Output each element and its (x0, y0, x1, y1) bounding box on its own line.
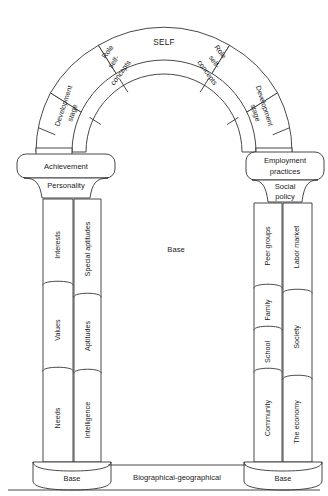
archway-model-diagram: SELF Role self- concepts Role self- conc… (0, 0, 328, 496)
right-outer-label-labor-market: Labor market (292, 226, 301, 268)
right-abacus-label-line2: policy (275, 192, 295, 201)
right-abacus-label-line1: Social (275, 182, 296, 191)
right-inner-label-school: School (263, 341, 272, 363)
right-inner-label-family: Family (263, 299, 272, 321)
right-column: Employment practices Social policy Peer … (244, 148, 324, 490)
right-outer-label-society: Society (292, 325, 301, 349)
right-capital-label-line1: Employment (264, 156, 307, 165)
left-column: Achievement Personality Interests Values… (17, 148, 115, 490)
right-base-label: Base (275, 474, 292, 483)
left-abacus-label: Personality (47, 181, 85, 190)
right-outer-subcolumn: Labor market Society The economy (283, 203, 312, 462)
right-inner-subcolumn: Peer groups Family School Community (254, 203, 282, 462)
left-base-label: Base (64, 474, 81, 483)
right-outer-label-the-economy: The economy (292, 400, 301, 444)
left-outer-label-aptitudes: Aptitudes (83, 321, 92, 351)
left-inner-subcolumn: Interests Values Needs (43, 199, 73, 462)
diagram-canvas: SELF Role self- concepts Role self- conc… (0, 0, 328, 496)
left-outer-subcolumn: Special aptitudes Aptitudes Intelligence (74, 199, 101, 462)
left-outer-label-special-aptitudes: Special aptitudes (83, 221, 92, 276)
left-capital-label: Achievement (44, 162, 89, 171)
left-outer-label-intelligence: Intelligence (83, 402, 92, 438)
arch-label-self: SELF (153, 38, 175, 47)
left-inner-label-values: Values (53, 319, 62, 341)
left-inner-label-needs: Needs (53, 407, 62, 428)
right-inner-label-peer-groups: Peer groups (263, 226, 272, 266)
foundation-label: Biographical-geographical (133, 473, 221, 482)
left-inner-label-interests: Interests (53, 231, 62, 259)
center-base-label: Base (167, 245, 184, 254)
right-inner-label-community: Community (263, 399, 272, 436)
right-capital-label-line2: practices (270, 167, 301, 176)
